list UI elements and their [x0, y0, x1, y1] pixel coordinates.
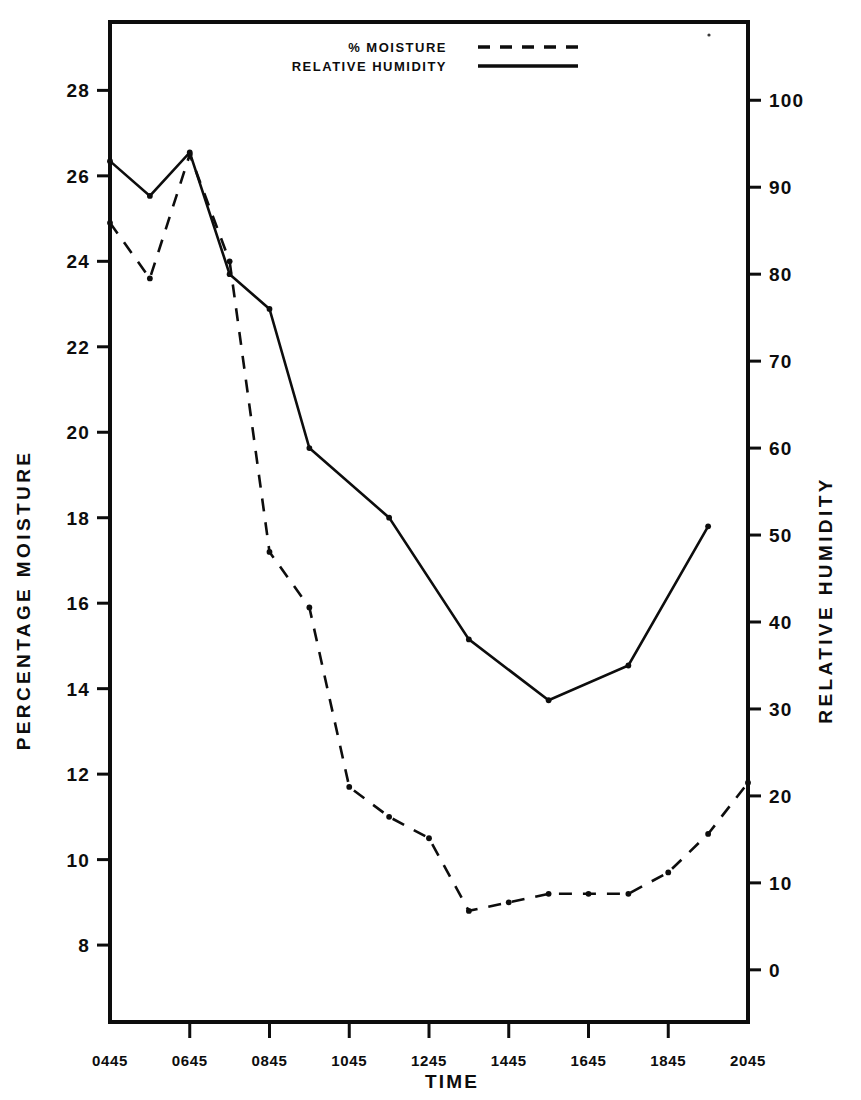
y-tick-label-26: 26 [66, 166, 90, 187]
data-point-moisture-1145 [386, 814, 392, 820]
data-point-moisture-0545 [147, 276, 153, 282]
chart-background [0, 0, 861, 1100]
legend-label-relative-humidity: RELATIVE HUMIDITY [292, 59, 447, 74]
y2-tick-label-0: 0 [769, 960, 781, 981]
y2-tick-label-20: 20 [769, 786, 793, 807]
data-point-moisture-1645 [586, 891, 592, 897]
data-point-relative-humidity-1945 [705, 523, 711, 529]
data-point-moisture-1045 [346, 784, 352, 790]
moisture-humidity-line-chart: 282624222018161412108 100908070605040302… [0, 0, 861, 1100]
y-tick-label-28: 28 [66, 80, 90, 101]
x-tick-label-1045: 1045 [331, 1052, 367, 1069]
page-speck [707, 33, 710, 36]
y2-tick-label-10: 10 [769, 873, 793, 894]
y2-tick-label-30: 30 [769, 699, 793, 720]
legend-label-moisture: % MOISTURE [348, 40, 447, 55]
x-tick-label-0445: 0445 [92, 1052, 128, 1069]
y-tick-label-10: 10 [66, 850, 90, 871]
y2-tick-label-50: 50 [769, 525, 793, 546]
data-point-relative-humidity-1145 [386, 515, 392, 521]
x-tick-label-1445: 1445 [491, 1052, 527, 1069]
y-tick-label-22: 22 [66, 337, 90, 358]
data-point-moisture-0845 [267, 549, 273, 555]
data-point-moisture-1245 [426, 835, 432, 841]
y2-tick-label-40: 40 [769, 612, 793, 633]
data-point-relative-humidity-0545 [147, 193, 153, 199]
x-tick-label-1845: 1845 [650, 1052, 686, 1069]
data-point-moisture-1745 [625, 891, 631, 897]
data-point-relative-humidity-0745 [227, 271, 233, 277]
data-point-moisture-0945 [306, 605, 312, 611]
data-point-moisture-1845 [665, 870, 671, 876]
y-tick-label-24: 24 [66, 251, 90, 272]
data-point-moisture-1545 [546, 891, 552, 897]
data-point-relative-humidity-1745 [625, 663, 631, 669]
data-point-moisture-1945 [705, 831, 711, 837]
y-tick-label-12: 12 [66, 764, 90, 785]
y2-tick-label-90: 90 [769, 177, 793, 198]
y2-axis-title: RELATIVE HUMIDITY [815, 476, 836, 723]
y2-tick-label-60: 60 [769, 438, 793, 459]
x-tick-label-0645: 0645 [172, 1052, 208, 1069]
x-tick-label-2045: 2045 [730, 1052, 766, 1069]
data-point-relative-humidity-0645 [187, 150, 193, 156]
y2-tick-label-100: 100 [769, 90, 804, 111]
x-tick-label-0845: 0845 [252, 1052, 288, 1069]
data-point-moisture-1345 [466, 908, 472, 914]
data-point-relative-humidity-1545 [546, 697, 552, 703]
data-point-moisture-2045 [745, 780, 751, 786]
x-tick-label-1245: 1245 [411, 1052, 447, 1069]
chart-figure: 282624222018161412108 100908070605040302… [0, 0, 861, 1100]
data-point-relative-humidity-1345 [466, 636, 472, 642]
y2-tick-label-70: 70 [769, 351, 793, 372]
x-tick-label-1645: 1645 [571, 1052, 607, 1069]
data-point-moisture-0445 [107, 220, 113, 226]
y-tick-label-20: 20 [66, 422, 90, 443]
y-tick-label-18: 18 [66, 508, 90, 529]
y-axis-title: PERCENTAGE MOISTURE [13, 450, 34, 751]
data-point-relative-humidity-0445 [107, 158, 113, 164]
data-point-relative-humidity-0845 [267, 306, 273, 312]
data-point-moisture-1445 [506, 899, 512, 905]
data-point-relative-humidity-0945 [306, 445, 312, 451]
y2-tick-label-80: 80 [769, 264, 793, 285]
y-tick-label-16: 16 [66, 593, 90, 614]
data-point-moisture-0745 [227, 258, 233, 264]
y-tick-label-14: 14 [66, 679, 90, 700]
x-axis-title: TIME [425, 1071, 479, 1092]
y-tick-label-8: 8 [78, 935, 90, 956]
x-axis-tick-labels: 044506450845104512451445164518452045 [92, 1052, 766, 1069]
